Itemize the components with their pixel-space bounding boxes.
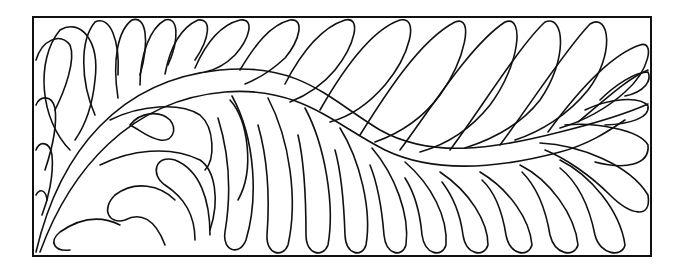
feather-drawing: [0, 0, 690, 269]
feather-quilt-illustration: feather quilting motif in rectangular bo…: [0, 0, 690, 269]
